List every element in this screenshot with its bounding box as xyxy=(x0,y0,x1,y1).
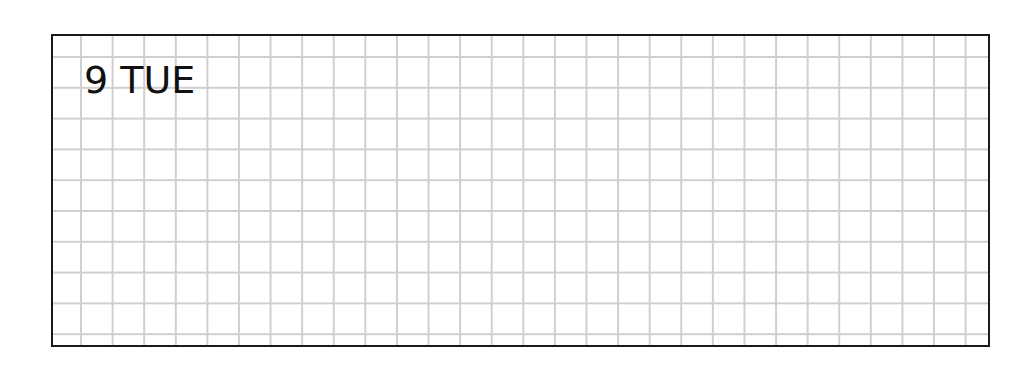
date-heading: 9 TUE xyxy=(84,58,195,102)
